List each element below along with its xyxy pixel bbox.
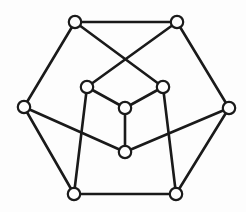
- graph-vertex-bottom-left: [68, 188, 80, 200]
- graph-vertex-top-left: [69, 16, 81, 28]
- graph-vertex-center: [119, 102, 131, 114]
- graph-vertex-bottom-right: [170, 188, 182, 200]
- graph-figure: [0, 0, 246, 212]
- graph-vertex-inner-left: [81, 81, 93, 93]
- graph-vertex-left: [18, 101, 30, 113]
- graph-canvas: [0, 0, 246, 212]
- graph-vertex-right: [223, 102, 235, 114]
- graph-vertex-lower-center: [119, 146, 131, 158]
- graph-vertex-inner-right: [157, 81, 169, 93]
- graph-vertex-top-right: [171, 16, 183, 28]
